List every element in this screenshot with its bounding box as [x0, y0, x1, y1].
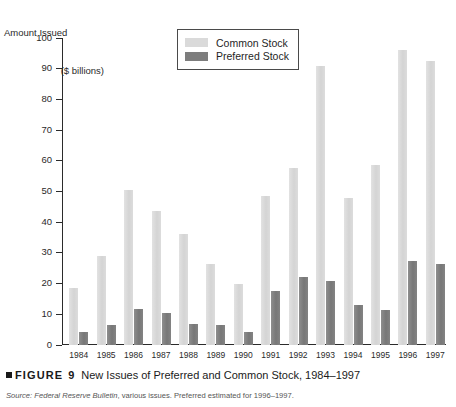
- bar-group-1993: [316, 38, 335, 345]
- bar-group-1991: [261, 38, 280, 345]
- bar-group-1988: [179, 38, 198, 345]
- source-note: Source: Federal Reserve Bulletin, variou…: [6, 391, 294, 400]
- bar-preferred-1987: [162, 313, 171, 345]
- x-tick-label-1988: 1988: [175, 350, 201, 360]
- bar-group-1992: [289, 38, 308, 345]
- bar-common-1992: [289, 168, 298, 345]
- bar-preferred-1991: [271, 291, 280, 345]
- y-tick-60: [56, 160, 62, 161]
- y-tick-label-100: 100: [24, 32, 52, 43]
- y-tick-10: [56, 314, 62, 315]
- x-tick-label-1990: 1990: [230, 350, 256, 360]
- bar-common-1984: [69, 288, 78, 345]
- bar-group-1994: [344, 38, 363, 345]
- y-tick-label-90: 90: [24, 62, 52, 73]
- legend-item-common: Common Stock: [185, 37, 289, 49]
- figure-word: FIGURE: [15, 369, 63, 381]
- bar-group-1995: [371, 38, 390, 345]
- bar-preferred-1986: [134, 309, 143, 345]
- bar-group-1996: [398, 38, 417, 345]
- bar-common-1989: [206, 264, 215, 345]
- bar-group-1987: [152, 38, 171, 345]
- bar-common-1986: [124, 190, 133, 345]
- bar-common-1990: [234, 284, 243, 345]
- bar-common-1997: [426, 61, 435, 345]
- y-tick-label-0: 0: [24, 339, 52, 350]
- bar-preferred-1990: [244, 332, 253, 346]
- source-publication: Federal Reserve Bulletin: [34, 391, 117, 400]
- bar-common-1987: [152, 211, 161, 345]
- bar-preferred-1996: [408, 261, 417, 345]
- y-tick-label-70: 70: [24, 124, 52, 135]
- y-tick-40: [56, 222, 62, 223]
- source-label: Source:: [6, 391, 32, 400]
- x-tick-label-1989: 1989: [203, 350, 229, 360]
- bar-preferred-1984: [79, 332, 88, 345]
- figure-caption: FIGURE 9 New Issues of Preferred and Com…: [6, 369, 360, 381]
- legend-label-common: Common Stock: [216, 37, 288, 49]
- x-tick-label-1997: 1997: [422, 350, 448, 360]
- x-tick-label-1994: 1994: [340, 350, 366, 360]
- y-tick-50: [56, 191, 62, 192]
- figure-container: Amount Issued ($ billions) 0102030405060…: [0, 0, 456, 407]
- bar-common-1985: [97, 256, 106, 345]
- chart-legend: Common Stock Preferred Stock: [177, 29, 299, 70]
- legend-swatch-preferred-icon: [185, 52, 208, 61]
- bar-preferred-1985: [107, 325, 116, 345]
- bar-common-1996: [398, 50, 407, 345]
- bar-preferred-1992: [299, 277, 308, 345]
- legend-item-preferred: Preferred Stock: [185, 50, 289, 62]
- bar-group-1984: [69, 38, 88, 345]
- bar-preferred-1994: [354, 305, 363, 345]
- bar-preferred-1995: [381, 310, 390, 345]
- figure-title: New Issues of Preferred and Common Stock…: [81, 369, 360, 381]
- bar-common-1995: [371, 165, 380, 345]
- figure-number: 9: [68, 369, 74, 381]
- y-tick-label-30: 30: [24, 246, 52, 257]
- bar-group-1985: [97, 38, 116, 345]
- bar-common-1993: [316, 66, 325, 345]
- bar-preferred-1988: [189, 324, 198, 345]
- bar-group-1986: [124, 38, 143, 345]
- y-tick-30: [56, 252, 62, 253]
- y-tick-90: [56, 68, 62, 69]
- bar-preferred-1989: [216, 325, 225, 345]
- x-tick-label-1993: 1993: [313, 350, 339, 360]
- y-tick-20: [56, 283, 62, 284]
- x-tick-label-1984: 1984: [66, 350, 92, 360]
- x-tick-label-1986: 1986: [121, 350, 147, 360]
- legend-label-preferred: Preferred Stock: [216, 50, 289, 62]
- square-bullet-icon: [6, 372, 12, 378]
- legend-swatch-common-icon: [185, 38, 208, 47]
- y-axis-line: [62, 38, 63, 345]
- y-tick-0: [56, 345, 62, 346]
- x-tick-label-1987: 1987: [148, 350, 174, 360]
- y-tick-label-20: 20: [24, 277, 52, 288]
- x-tick-label-1996: 1996: [395, 350, 421, 360]
- y-tick-label-60: 60: [24, 154, 52, 165]
- bar-group-1989: [206, 38, 225, 345]
- source-rest: , various issues. Preferred estimated fo…: [117, 391, 293, 400]
- y-tick-label-40: 40: [24, 216, 52, 227]
- x-tick-label-1995: 1995: [367, 350, 393, 360]
- bar-group-1990: [234, 38, 253, 345]
- bar-common-1988: [179, 234, 188, 345]
- bar-common-1991: [261, 196, 270, 345]
- x-tick-label-1985: 1985: [93, 350, 119, 360]
- x-tick-label-1991: 1991: [258, 350, 284, 360]
- y-tick-label-50: 50: [24, 185, 52, 196]
- y-tick-100: [56, 38, 62, 39]
- y-tick-70: [56, 130, 62, 131]
- x-tick-label-1992: 1992: [285, 350, 311, 360]
- bar-common-1994: [344, 198, 353, 345]
- y-tick-label-10: 10: [24, 308, 52, 319]
- bar-preferred-1997: [436, 264, 445, 345]
- plot-area: 0102030405060708090100 19841985198619871…: [62, 38, 446, 345]
- y-tick-80: [56, 99, 62, 100]
- bar-preferred-1993: [326, 281, 335, 345]
- y-tick-label-80: 80: [24, 93, 52, 104]
- bar-group-1997: [426, 38, 445, 345]
